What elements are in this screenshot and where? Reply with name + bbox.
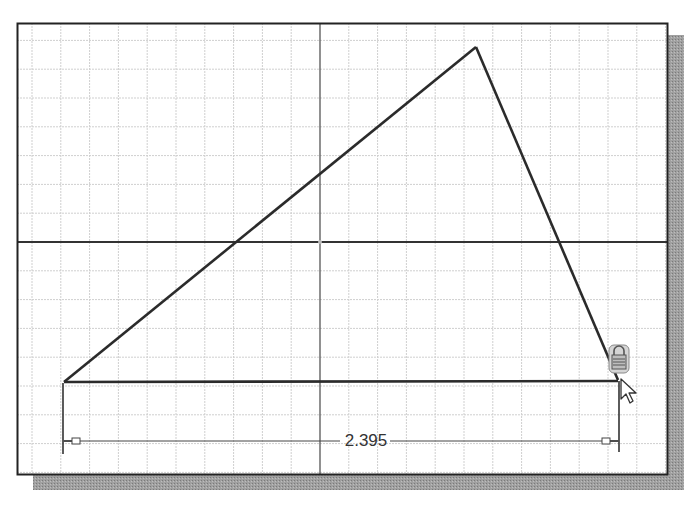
origin-point [318, 240, 322, 244]
drawing-area[interactable] [17, 23, 668, 475]
lock-icon[interactable] [609, 345, 629, 373]
base-line[interactable] [64, 381, 618, 382]
sketch-canvas[interactable]: 2.395 [0, 0, 700, 518]
dimension-value[interactable]: 2.395 [345, 431, 388, 450]
